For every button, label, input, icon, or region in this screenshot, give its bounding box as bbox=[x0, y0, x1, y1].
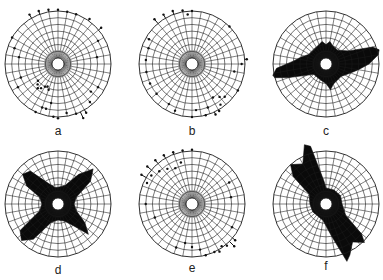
polar-plot-e bbox=[139, 148, 245, 257]
rose-diagram-figure: a b c d e f bbox=[0, 0, 383, 280]
panel-label-b: b bbox=[182, 125, 202, 137]
panel-label-c: c bbox=[316, 125, 336, 137]
panel-label-d: d bbox=[48, 264, 68, 276]
polar-plot-f bbox=[273, 145, 379, 262]
polar-plots-canvas bbox=[0, 0, 383, 280]
polar-plot-a bbox=[5, 8, 111, 119]
center-hub-b bbox=[186, 58, 198, 70]
panel-label-e: e bbox=[182, 262, 202, 274]
center-hub-c bbox=[320, 58, 332, 70]
polar-plot-d bbox=[5, 151, 111, 257]
polar-plot-b bbox=[139, 9, 248, 118]
panel-label-a: a bbox=[48, 125, 68, 137]
center-hub-d bbox=[52, 198, 64, 210]
panel-label-f: f bbox=[316, 260, 336, 272]
polar-plot-c bbox=[273, 11, 379, 117]
center-hub-f bbox=[320, 198, 332, 210]
center-hub-a bbox=[52, 58, 64, 70]
center-hub-e bbox=[186, 198, 198, 210]
